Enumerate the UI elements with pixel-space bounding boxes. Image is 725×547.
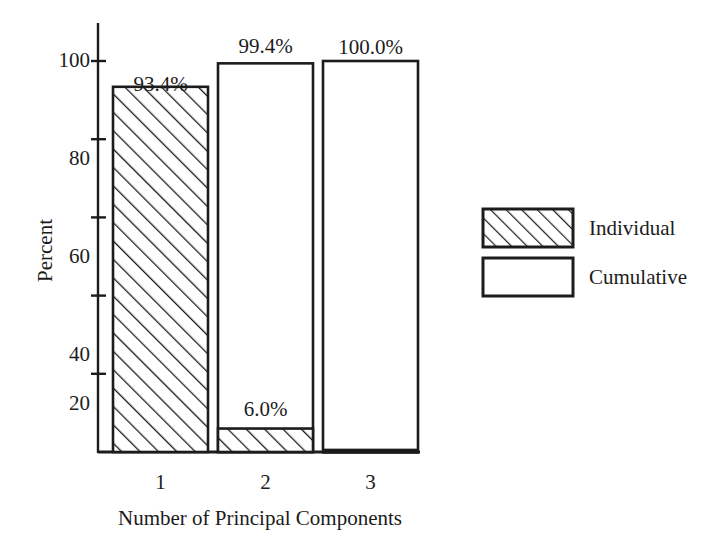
y-axis-title: Percent [33,196,58,306]
bar-2-cumulative-value: 99.4% [218,36,313,57]
legend-label-individual: Individual [589,218,675,239]
chart-figure: 100 80 60 40 20 Percent 93.4% 99.4% 6.0%… [0,0,725,547]
legend-label-cumulative: Cumulative [589,267,687,288]
y-tick-label-20: 20 [36,393,90,414]
bar-group-1 [113,87,208,452]
bar-group-2 [218,63,313,452]
bar-2-cumulative[interactable] [218,63,313,452]
bar-1-individual-value: 93.4% [113,74,208,95]
legend-swatch-individual[interactable] [483,209,573,247]
x-tick-label-1: 1 [113,472,208,493]
bar-3-cumulative[interactable] [323,61,418,452]
legend-swatch-cumulative[interactable] [483,258,573,296]
bar-3-individual[interactable] [323,450,418,453]
bar-2-individual[interactable] [218,429,313,452]
bar-2-individual-value: 6.0% [218,399,313,420]
x-axis-title: Number of Principal Components [60,508,460,529]
bar-3-cumulative-value: 100.0% [323,37,418,58]
x-tick-label-3: 3 [323,472,418,493]
y-tick-label-100: 100 [36,50,90,71]
y-tick-label-40: 40 [36,344,90,365]
y-tick-label-80: 80 [36,148,90,169]
x-tick-label-2: 2 [218,472,313,493]
bar-1-individual[interactable] [113,87,208,452]
bar-group-3 [323,61,418,453]
